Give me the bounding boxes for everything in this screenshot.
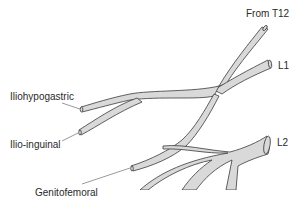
ilioinguinal-cut-end [79, 130, 82, 135]
label-l2: L2 [277, 138, 288, 148]
label-l1: L1 [278, 61, 289, 71]
ilioinguinal-leader-line [62, 133, 78, 141]
label-from-t12: From T12 [246, 9, 289, 19]
iliohypogastric-leader-line [62, 103, 80, 109]
l2-nerve [140, 136, 269, 190]
iliohypogastric-nerve [81, 86, 219, 112]
iliohypogastric-cut-end [80, 107, 83, 112]
genitofemoral-leader-line [82, 168, 130, 184]
label-genitofemoral: Genitofemoral [35, 188, 98, 198]
l1-nerve [214, 60, 271, 94]
label-iliohypogastric: Iliohypogastric [10, 92, 74, 102]
nerve-illustration [0, 0, 302, 209]
genitofemoral-cut-end [131, 166, 134, 171]
label-ilio-inguinal: Ilio-inguinal [10, 140, 61, 150]
lumbar-plexus-diagram: From T12 L1 Iliohypogastric Ilio-inguina… [0, 0, 302, 209]
